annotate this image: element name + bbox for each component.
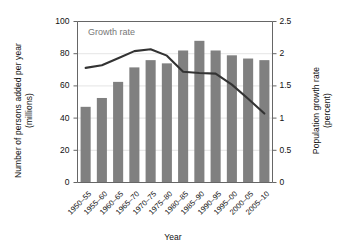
y-axis-right-title: Population growth rate (percent) [311,26,332,196]
y-axis-left-title-line2: (millions) [23,26,34,196]
growth-rate-annotation: Growth rate [88,27,135,37]
y-axis-right-title-line1: Population growth rate [311,26,322,196]
y-axis-left-tick-label: 60 [40,80,70,90]
chart-bar [146,60,156,182]
y-axis-left-tick-label: 40 [40,113,70,123]
y-axis-left-tick-label: 20 [40,145,70,155]
chart-bar [194,41,204,183]
y-axis-left-tick-label: 100 [40,16,70,26]
chart-bar [227,55,237,182]
y-axis-left-tick-label: 0 [40,177,70,187]
y-axis-right-tick-label: 1.5 [280,80,310,90]
y-axis-right-title-line2: (percent) [321,26,332,196]
chart-bar [129,67,139,182]
y-axis-right-tick-label: 2 [280,48,310,58]
y-axis-right-tick-label: 0.5 [280,145,310,155]
y-axis-right-tick-label: 0 [280,177,310,187]
chart-bar [97,98,107,183]
y-axis-left-title: Number of persons added per year (millio… [13,26,34,196]
y-axis-left-tick-label: 80 [40,48,70,58]
chart-bar [243,59,253,183]
chart-figure: Growth rate Number of persons added per … [0,0,346,252]
y-axis-right-tick-label: 2.5 [280,16,310,26]
chart-bar [211,50,221,182]
chart-bar [259,60,269,182]
chart-bar [81,107,91,183]
chart-bar [113,82,123,183]
y-axis-left-title-line1: Number of persons added per year [13,26,24,196]
y-axis-right-tick-label: 1 [280,113,310,123]
chart-bar [162,63,172,182]
x-axis-title: Year [103,232,243,242]
